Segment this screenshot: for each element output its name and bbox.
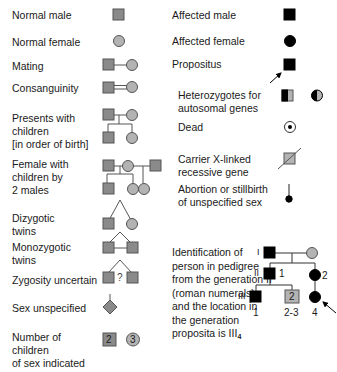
mating-icon (103, 59, 138, 71)
affected-female-icon (285, 36, 296, 47)
gen3-number-4: 4 (312, 306, 318, 319)
propositus-icon (284, 59, 295, 70)
gen1-male-icon (264, 247, 275, 258)
gen-label-1: I (257, 246, 260, 259)
affected-male-icon (284, 9, 295, 20)
male-count-text: 2 (106, 333, 112, 346)
consanguinity-icon (103, 82, 138, 94)
normal-female-icon (114, 36, 125, 47)
gen2-number-1: 1 (279, 267, 285, 280)
gen3-count-text: 2 (289, 290, 295, 303)
female-two-males-icon (103, 160, 161, 195)
presents-children-icon (103, 109, 138, 144)
heterozygote-male-icon (282, 90, 293, 101)
dizygotic-twins-icon (103, 200, 138, 230)
dead-icon (285, 122, 296, 133)
sex-unspecified-icon (103, 294, 117, 314)
gen-label-2: II (254, 267, 259, 280)
gen2-female-icon (310, 270, 321, 281)
female-count-text: 3 (130, 333, 136, 346)
abortion-icon (286, 184, 292, 202)
gen3-male-icon (250, 291, 261, 302)
propositus-arrow-icon (270, 73, 281, 83)
monozygotic-twins-icon (103, 232, 138, 253)
gen3-number-2: 2-3 (284, 306, 298, 319)
carrier-x-linked-icon (278, 148, 301, 169)
proposita-arrow-icon (323, 302, 336, 313)
gen1-female-icon (307, 248, 318, 259)
gen2-number-2: 2 (322, 269, 328, 282)
heterozygote-female-icon (312, 90, 323, 101)
gen3-proposita-icon (310, 292, 321, 303)
gen-label-3: III (238, 290, 246, 303)
gen3-number-1: 1 (253, 306, 259, 319)
normal-male-icon (113, 9, 124, 20)
gen2-male-icon (264, 268, 275, 279)
zygosity-question-mark: ? (117, 271, 123, 284)
